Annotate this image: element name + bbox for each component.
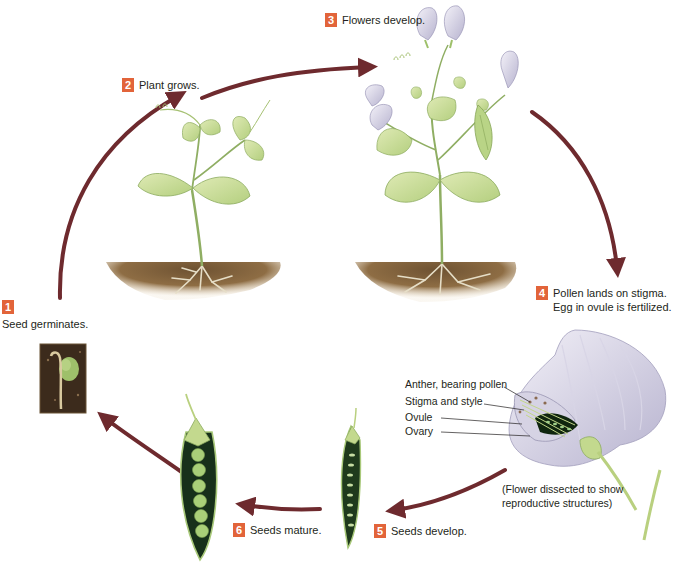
arrow-3-to-4 bbox=[532, 112, 617, 268]
flower-left-2 bbox=[365, 85, 384, 106]
step-1-label: 1 Seed germinates. bbox=[2, 300, 88, 331]
flower-left-1 bbox=[370, 104, 392, 130]
step-number-badge: 2 bbox=[122, 78, 134, 92]
step-text: Pollen lands on stigma. bbox=[553, 286, 672, 300]
label-ovule: Ovule bbox=[405, 411, 432, 424]
arrow-4-to-5 bbox=[395, 470, 505, 510]
step-text: Flowers develop. bbox=[342, 13, 425, 27]
flowering-plant-illustration bbox=[355, 6, 518, 302]
flower-right bbox=[501, 51, 518, 88]
arrow-2-to-3 bbox=[202, 67, 368, 98]
developing-pod-illustration bbox=[342, 408, 361, 548]
step-text: Seeds develop. bbox=[391, 524, 467, 538]
label-anther: Anther, bearing pollen bbox=[405, 378, 507, 391]
step-2-label: 2 Plant grows. bbox=[122, 78, 200, 92]
label-stigma-style: Stigma and style bbox=[405, 395, 483, 408]
step-number-badge: 6 bbox=[233, 523, 245, 537]
flower-caption: (Flower dissected to show reproductive s… bbox=[502, 482, 623, 510]
step-6-label: 6 Seeds mature. bbox=[233, 523, 322, 537]
step-number-badge: 5 bbox=[374, 524, 386, 538]
step-text: Seed germinates. bbox=[2, 317, 88, 331]
step-text: Plant grows. bbox=[139, 78, 200, 92]
label-ovary: Ovary bbox=[405, 425, 433, 438]
pea-life-cycle-diagram: 1 Seed germinates. 2 Plant grows. 3 Flow… bbox=[0, 0, 689, 581]
germinating-seed-illustration bbox=[40, 344, 86, 413]
step-4-label: 4 Pollen lands on stigma. Egg in ovule i… bbox=[536, 286, 672, 314]
arrow-5-to-6 bbox=[245, 505, 320, 509]
step-number-badge: 1 bbox=[2, 300, 14, 314]
mature-pod-illustration bbox=[181, 394, 217, 560]
arrow-6-to-1 bbox=[105, 418, 183, 473]
caption-line-1: (Flower dissected to show bbox=[502, 482, 623, 496]
step-text: Seeds mature. bbox=[250, 523, 322, 537]
step-number-badge: 4 bbox=[536, 286, 548, 300]
step-text-line-2: Egg in ovule is fertilized. bbox=[553, 300, 672, 314]
step-number-badge: 3 bbox=[325, 13, 337, 27]
step-3-label: 3 Flowers develop. bbox=[325, 13, 425, 27]
caption-line-2: reproductive structures) bbox=[502, 496, 623, 510]
step-5-label: 5 Seeds develop. bbox=[374, 524, 467, 538]
